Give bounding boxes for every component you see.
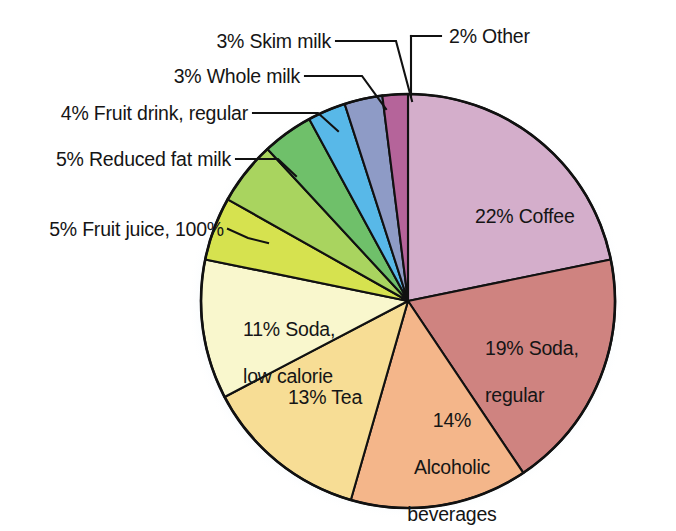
pie-chart: 3% Skim milk 3% Whole milk 4% Fruit drin… <box>0 0 676 531</box>
label-soda-low-calorie-line1: 11% Soda, <box>243 318 403 342</box>
label-alcoholic-line2: Alcoholic <box>377 456 527 480</box>
label-fruit-drink-regular: 4% Fruit drink, regular <box>61 102 248 125</box>
label-soda-low-calorie: 11% Soda, low calorie <box>243 294 403 412</box>
label-soda-low-calorie-line2: low calorie <box>243 365 403 389</box>
label-alcoholic-line3: beverages <box>377 503 527 527</box>
label-alcoholic-line1: 14% <box>377 409 527 433</box>
label-fruit-juice-100: 5% Fruit juice, 100% <box>49 218 224 241</box>
label-other: 2% Other <box>449 25 530 48</box>
pie-chart-graphic <box>0 0 676 531</box>
label-whole-milk: 3% Whole milk <box>174 65 300 88</box>
label-coffee: 22% Coffee <box>475 205 575 229</box>
label-reduced-fat-milk: 5% Reduced fat milk <box>56 148 231 171</box>
label-soda-regular-line1: 19% Soda, <box>485 337 645 361</box>
label-skim-milk: 3% Skim milk <box>216 30 331 53</box>
